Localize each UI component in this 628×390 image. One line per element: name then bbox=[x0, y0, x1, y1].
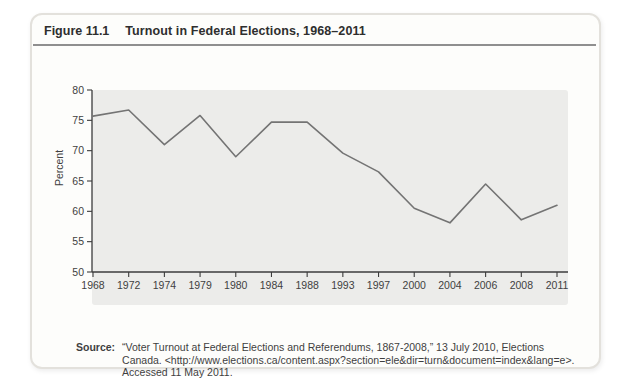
source-line: “Voter Turnout at Federal Elections and … bbox=[122, 341, 606, 354]
page: Figure 11.1Turnout in Federal Elections,… bbox=[0, 0, 628, 390]
figure-panel: Figure 11.1Turnout in Federal Elections,… bbox=[30, 13, 601, 369]
source-line: Accessed 11 May 2011. bbox=[122, 366, 606, 379]
figure-header: Figure 11.1Turnout in Federal Elections,… bbox=[32, 15, 599, 39]
source-line: Canada. <http://www.elections.ca/content… bbox=[122, 354, 606, 367]
figure-title: Turnout in Federal Elections, 1968–2011 bbox=[125, 24, 366, 38]
source-note: Source: “Voter Turnout at Federal Electi… bbox=[76, 341, 606, 379]
source-label: Source: bbox=[76, 341, 115, 354]
header-rule bbox=[33, 44, 596, 46]
figure-number: Figure 11.1 bbox=[44, 24, 109, 38]
source-text: “Voter Turnout at Federal Elections and … bbox=[122, 341, 606, 379]
